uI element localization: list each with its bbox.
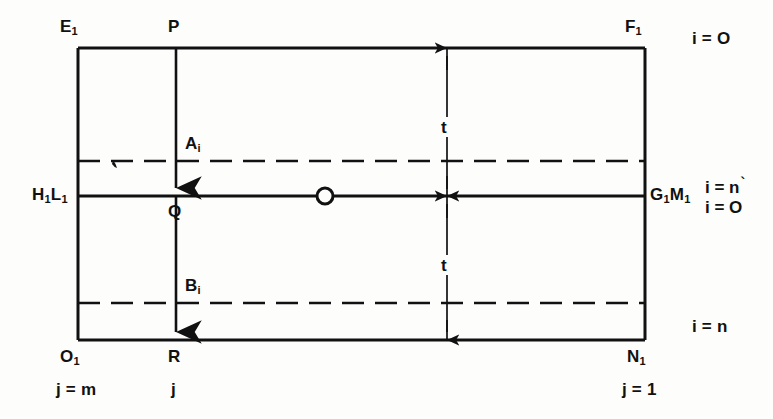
- label-index-top-right: i = O: [692, 30, 730, 47]
- label-j-bottom-left: j = m: [56, 381, 96, 398]
- label-mid-right: G1M1: [650, 186, 690, 203]
- label-corner-bottom-right: N1: [627, 348, 646, 365]
- mesh-diagram: [0, 0, 773, 419]
- label-thickness-lower: t: [441, 257, 447, 274]
- label-point-p: P: [168, 18, 180, 35]
- label-thickness-upper: t: [441, 119, 447, 136]
- label-index-mid-right-lower: i = O: [705, 198, 744, 218]
- label-corner-top-right: F1: [625, 18, 642, 35]
- label-index-bottom-right: i = n: [692, 318, 727, 335]
- label-j-bottom-right: j = 1: [622, 381, 657, 398]
- label-corner-top-left: E1: [60, 18, 78, 35]
- label-point-q: Q: [168, 203, 181, 220]
- label-corner-bottom-left: O1: [60, 348, 80, 365]
- label-point-a-i: Ai: [185, 135, 201, 152]
- mesh-frame: [78, 48, 645, 340]
- diagram-canvas: E1 F1 O1 N1 H1L1 G1M1 P Q R Ai Bi t t i …: [0, 0, 773, 419]
- label-j-bottom-center: j: [171, 381, 176, 398]
- node-circle-marker: [317, 188, 333, 204]
- label-point-b-i: Bi: [185, 277, 201, 294]
- label-index-mid-right-upper: i = n`: [705, 178, 744, 198]
- label-point-r: R: [168, 348, 180, 365]
- label-index-mid-right: i = n` i = O: [705, 178, 744, 217]
- label-mid-left: H1L1: [32, 186, 68, 203]
